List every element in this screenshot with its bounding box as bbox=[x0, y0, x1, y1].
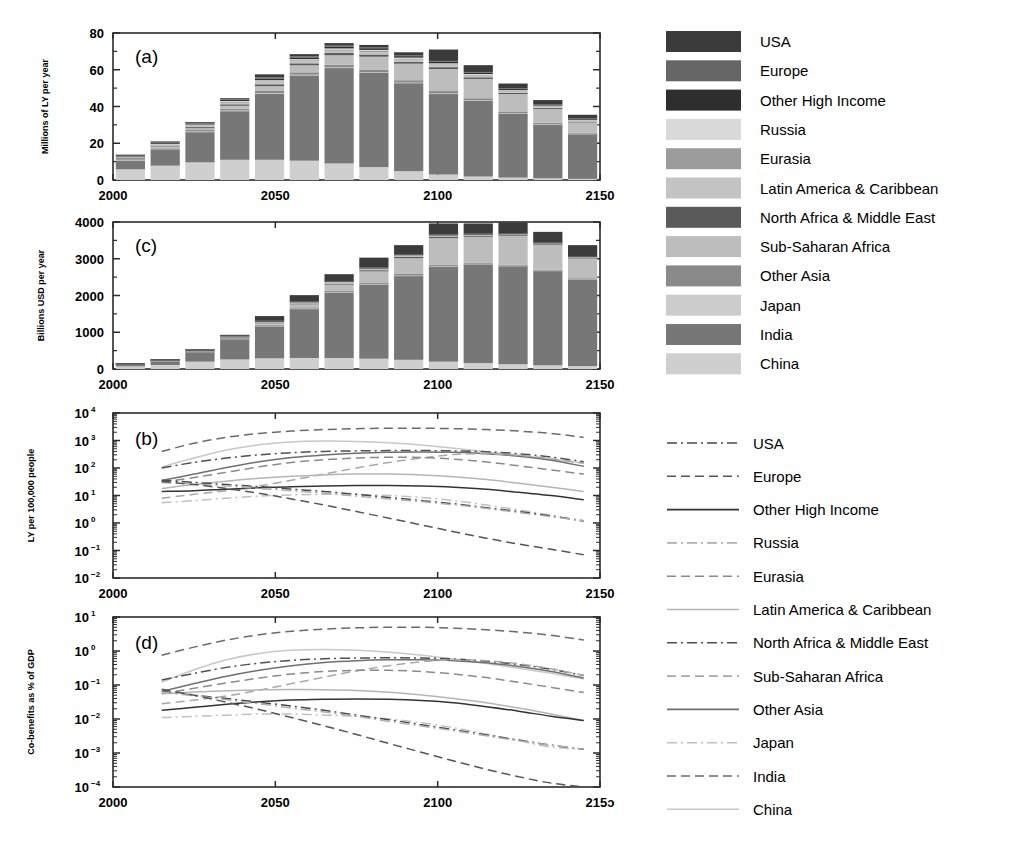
bar-segment bbox=[498, 89, 527, 90]
legend-swatch bbox=[666, 295, 741, 316]
bar-legend-item[interactable]: Russia bbox=[666, 119, 807, 140]
bar-segment bbox=[255, 358, 284, 369]
bar-segment bbox=[394, 276, 423, 360]
svg-text:−2: −2 bbox=[91, 570, 101, 579]
bar-segment bbox=[533, 245, 562, 270]
y-tick-label: 0 bbox=[97, 173, 104, 188]
legend-label: China bbox=[760, 355, 800, 372]
bar-segment bbox=[394, 58, 423, 59]
bar-segment bbox=[568, 134, 597, 135]
bar-segment bbox=[151, 142, 180, 143]
bar-segment bbox=[220, 335, 249, 336]
bar-segment bbox=[290, 75, 319, 76]
bar-legend-item[interactable]: India bbox=[666, 324, 793, 345]
bar-stack bbox=[151, 359, 180, 369]
bar-legend-item[interactable]: Other High Income bbox=[666, 90, 886, 111]
bar-segment bbox=[185, 132, 214, 162]
bar-segment bbox=[498, 90, 527, 91]
panel-label: (c) bbox=[135, 235, 157, 256]
legend-swatch bbox=[666, 353, 741, 374]
bar-segment bbox=[255, 160, 284, 180]
svg-text:1: 1 bbox=[91, 488, 96, 497]
bar-legend-item[interactable]: USA bbox=[666, 31, 791, 52]
legend-label: Eurasia bbox=[760, 150, 812, 167]
bar-segment bbox=[255, 323, 284, 325]
bar-segment bbox=[255, 94, 284, 160]
bar-legend-item[interactable]: Latin America & Caribbean bbox=[666, 178, 938, 199]
legend-swatch bbox=[666, 178, 741, 199]
bar-segment bbox=[325, 292, 354, 358]
bar-segment bbox=[290, 56, 319, 57]
bar-segment bbox=[325, 47, 354, 49]
bar-segment bbox=[533, 232, 562, 242]
bar-segment bbox=[220, 102, 249, 103]
legend-label: Sub-Saharan Africa bbox=[753, 668, 884, 685]
bar-segment bbox=[429, 91, 458, 93]
bar-segment bbox=[185, 122, 214, 123]
bar-segment bbox=[359, 267, 388, 268]
svg-text:−1: −1 bbox=[91, 677, 101, 686]
bar-stack bbox=[255, 316, 284, 369]
bar-segment bbox=[568, 258, 597, 278]
bar-segment bbox=[533, 123, 562, 124]
y-tick-label: 80 bbox=[90, 26, 104, 41]
bar-segment bbox=[464, 264, 493, 363]
legend-label: North Africa & Middle East bbox=[753, 634, 929, 651]
legend-swatch bbox=[666, 236, 741, 257]
bar-legend-item[interactable]: Europe bbox=[666, 60, 808, 81]
bar-segment bbox=[290, 301, 319, 302]
bar-segment bbox=[359, 72, 388, 73]
bar-segment bbox=[498, 222, 527, 233]
bar-segment bbox=[498, 111, 527, 113]
bar-segment bbox=[255, 91, 284, 93]
bar-segment bbox=[429, 61, 458, 62]
svg-text:10: 10 bbox=[75, 610, 89, 625]
legend-label: Latin America & Caribbean bbox=[753, 601, 931, 618]
bar-legend-item[interactable]: China bbox=[666, 353, 800, 374]
bar-segment bbox=[568, 366, 597, 369]
bar-segment bbox=[325, 292, 354, 293]
bar-segment bbox=[255, 77, 284, 78]
bar-segment bbox=[464, 75, 493, 76]
bar-segment bbox=[255, 321, 284, 322]
bar-segment bbox=[568, 120, 597, 121]
bar-segment bbox=[533, 271, 562, 366]
x-tick-label: 2100 bbox=[423, 795, 452, 810]
legend-label: North Africa & Middle East bbox=[760, 209, 936, 226]
bar-segment bbox=[429, 50, 458, 61]
bar-segment bbox=[429, 93, 458, 94]
bar-segment bbox=[533, 242, 562, 243]
bar-segment bbox=[325, 53, 354, 55]
bar-segment bbox=[290, 60, 319, 61]
bar-segment bbox=[359, 47, 388, 48]
bar-segment bbox=[429, 94, 458, 175]
bar-segment bbox=[533, 270, 562, 271]
bar-segment bbox=[498, 265, 527, 266]
bar-segment bbox=[464, 100, 493, 101]
legend-label: Latin America & Caribbean bbox=[760, 180, 938, 197]
bar-segment bbox=[429, 237, 458, 238]
bar-segment bbox=[568, 245, 597, 256]
bar-segment bbox=[359, 258, 388, 268]
bar-stack bbox=[116, 363, 145, 369]
bar-segment bbox=[290, 161, 319, 180]
x-tick-label: 2150 bbox=[586, 188, 615, 203]
bar-legend-item[interactable]: North Africa & Middle East bbox=[666, 207, 936, 228]
bar-segment bbox=[568, 256, 597, 257]
bar-stack bbox=[116, 155, 145, 180]
bar-legend-item[interactable]: Japan bbox=[666, 295, 801, 316]
svg-text:3: 3 bbox=[91, 433, 96, 442]
bar-segment bbox=[185, 350, 214, 351]
bar-segment bbox=[255, 326, 284, 358]
bar-legend-item[interactable]: Sub-Saharan Africa bbox=[666, 236, 891, 257]
bar-legend-item[interactable]: Eurasia bbox=[666, 148, 812, 169]
y-tick-label: 40 bbox=[90, 100, 104, 115]
bar-segment bbox=[533, 108, 562, 109]
bar-segment bbox=[533, 270, 562, 271]
legend-label: India bbox=[760, 326, 793, 343]
bar-segment bbox=[185, 125, 214, 126]
svg-text:−2: −2 bbox=[91, 711, 101, 720]
bar-segment bbox=[394, 55, 423, 56]
bar-segment bbox=[394, 83, 423, 171]
bar-segment bbox=[429, 64, 458, 65]
